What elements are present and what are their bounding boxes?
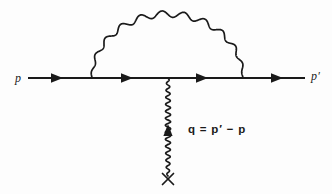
outgoing-momentum-label: p′ bbox=[311, 70, 320, 82]
diagram-canvas bbox=[0, 0, 332, 194]
photon-loop-arc bbox=[91, 11, 243, 78]
feynman-diagram-figure: p p′ q = p′ − p bbox=[0, 0, 332, 194]
photon-loop-path bbox=[91, 11, 243, 78]
fermion-line bbox=[28, 73, 305, 83]
momentum-transfer-equation-label: q = p′ − p bbox=[188, 124, 246, 136]
external-photon-line bbox=[163, 78, 174, 185]
incoming-momentum-label: p bbox=[15, 72, 21, 84]
fermion-arrowhead-2 bbox=[121, 73, 133, 83]
fermion-arrowhead-4 bbox=[271, 73, 283, 83]
fermion-arrowhead-1 bbox=[51, 73, 63, 83]
fermion-arrowhead-3 bbox=[196, 73, 208, 83]
